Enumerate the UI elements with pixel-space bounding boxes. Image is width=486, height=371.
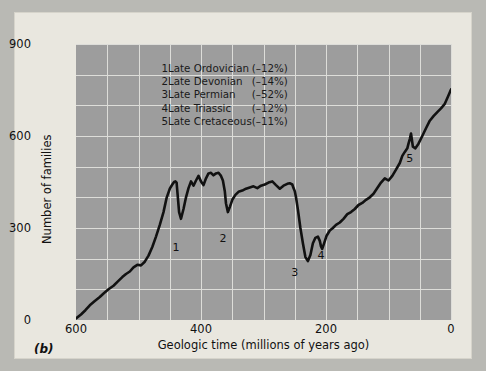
legend-percent: (–12%) bbox=[252, 102, 288, 115]
legend-row: 5Late Cretaceous(–11%) bbox=[154, 115, 288, 128]
legend-number: 1 bbox=[154, 62, 168, 75]
legend-row: 2Late Devonian(–14%) bbox=[154, 75, 288, 88]
event-label-4: 4 bbox=[318, 249, 325, 262]
legend-row: 4Late Triassic(–12%) bbox=[154, 102, 288, 115]
legend-percent: (–12%) bbox=[252, 62, 288, 75]
panel-label: (b) bbox=[34, 342, 54, 356]
legend-event-name: Late Ordovician bbox=[168, 62, 252, 75]
x-axis-label: Geologic time (millions of years ago) bbox=[76, 338, 451, 352]
x-tick-400: 400 bbox=[190, 322, 212, 336]
extinction-legend: 1Late Ordovician(–12%)2Late Devonian(–14… bbox=[154, 62, 288, 128]
legend-event-name: Late Devonian bbox=[168, 75, 252, 88]
legend-event-name: Late Triassic bbox=[168, 102, 252, 115]
event-label-1: 1 bbox=[173, 241, 180, 254]
legend-number: 5 bbox=[154, 115, 168, 128]
y-tick-300: 300 bbox=[0, 221, 31, 235]
legend-table: 1Late Ordovician(–12%)2Late Devonian(–14… bbox=[154, 62, 288, 128]
event-label-2: 2 bbox=[219, 232, 226, 245]
x-tick-200: 200 bbox=[315, 322, 337, 336]
event-label-3: 3 bbox=[291, 266, 298, 279]
figure-panel: 12345 1Late Ordovician(–12%)2Late Devoni… bbox=[14, 12, 472, 359]
x-tick-0: 0 bbox=[447, 322, 454, 336]
x-tick-600: 600 bbox=[65, 322, 87, 336]
legend-number: 3 bbox=[154, 88, 168, 101]
y-tick-900: 900 bbox=[0, 37, 31, 51]
y-tick-0: 0 bbox=[0, 313, 31, 327]
y-tick-600: 600 bbox=[0, 129, 31, 143]
legend-row: 3Late Permian(–52%) bbox=[154, 88, 288, 101]
legend-event-name: Late Permian bbox=[168, 88, 252, 101]
gridline-vertical bbox=[451, 44, 452, 320]
legend-percent: (–11%) bbox=[252, 115, 288, 128]
legend-number: 2 bbox=[154, 75, 168, 88]
y-axis-label: Number of families bbox=[40, 134, 54, 244]
plot-area: 12345 1Late Ordovician(–12%)2Late Devoni… bbox=[76, 44, 451, 320]
legend-number: 4 bbox=[154, 102, 168, 115]
legend-percent: (–14%) bbox=[252, 75, 288, 88]
event-label-5: 5 bbox=[406, 152, 413, 165]
legend-row: 1Late Ordovician(–12%) bbox=[154, 62, 288, 75]
legend-percent: (–52%) bbox=[252, 88, 288, 101]
legend-event-name: Late Cretaceous bbox=[168, 115, 252, 128]
